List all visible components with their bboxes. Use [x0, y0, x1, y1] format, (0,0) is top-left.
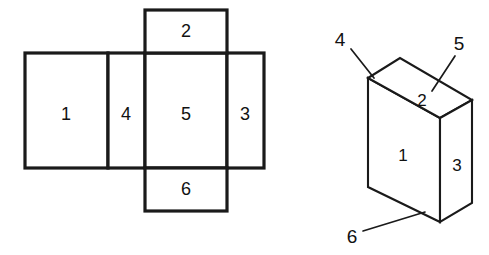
box-face-front-label: 1 [398, 146, 407, 165]
net-face-1-label: 1 [61, 104, 71, 124]
net-face-3-label: 3 [240, 104, 250, 124]
callout-5-label: 5 [454, 33, 465, 54]
box-face-side-label: 3 [452, 156, 461, 175]
figure-canvas: 1 4 5 3 2 6 1 2 3 4 5 6 [0, 0, 489, 255]
net-face-6-label: 6 [181, 179, 191, 199]
callout-6-label: 6 [347, 226, 358, 247]
callout-4-label: 4 [335, 29, 346, 50]
net-face-5-label: 5 [181, 104, 191, 124]
geometry-figure: 1 4 5 3 2 6 1 2 3 4 5 6 [0, 0, 489, 255]
callout-4-leader-line [351, 49, 374, 78]
callout-6-leader-line [363, 212, 425, 231]
unfolded-net-group: 1 4 5 3 2 6 [25, 10, 264, 211]
net-face-2-label: 2 [181, 21, 191, 41]
box-face-top-label: 2 [417, 91, 426, 110]
net-face-4-label: 4 [121, 104, 131, 124]
assembled-box-group: 1 2 3 [368, 58, 472, 222]
